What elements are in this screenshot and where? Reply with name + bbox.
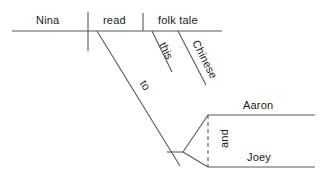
prep-object-label-joey: Joey xyxy=(247,151,271,163)
fork-branch-upper xyxy=(183,115,208,152)
subject-label: Nina xyxy=(36,14,59,26)
conjunction-label-and: and xyxy=(218,129,230,148)
diagram-lines xyxy=(0,0,325,187)
fork-branch-lower xyxy=(183,152,208,167)
verb-label: read xyxy=(103,14,126,26)
prep-object-label-aaron: Aaron xyxy=(243,99,273,111)
sentence-diagram: Nina read folk tale this Chinese to Aaro… xyxy=(0,0,325,187)
direct-object-label: folk tale xyxy=(158,14,198,26)
